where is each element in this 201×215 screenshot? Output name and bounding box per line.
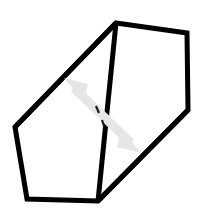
figure-canvas [0,0,201,215]
hexagonal-prism-diagram [0,0,201,215]
